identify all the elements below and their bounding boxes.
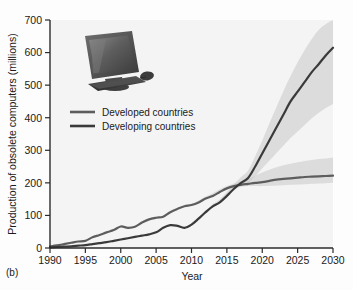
x-tick-label: 2005 — [144, 254, 168, 266]
x-tick-label: 1990 — [38, 254, 62, 266]
x-tick-label: 2020 — [251, 254, 275, 266]
figure-panel-b: 0100200300400500600700 19901995200020052… — [0, 0, 353, 290]
y-tick-label: 600 — [24, 46, 42, 58]
y-tick-label: 200 — [24, 177, 42, 189]
x-axis-ticks: 199019952000200520102015202020252030 — [38, 248, 345, 266]
legend-label-developing: Developing countries — [102, 121, 195, 132]
chart-canvas: 0100200300400500600700 19901995200020052… — [0, 0, 353, 290]
y-axis-title: Production of obsolete computers (millio… — [6, 33, 18, 234]
x-tick-label: 2025 — [286, 254, 310, 266]
y-tick-label: 0 — [36, 242, 42, 254]
y-tick-label: 700 — [24, 14, 42, 26]
x-tick-label: 2030 — [321, 254, 345, 266]
x-axis-title: Year — [181, 270, 203, 282]
y-tick-label: 400 — [24, 112, 42, 124]
x-tick-label: 2010 — [180, 254, 204, 266]
y-axis-ticks: 0100200300400500600700 — [24, 14, 50, 254]
x-tick-label: 2015 — [215, 254, 239, 266]
y-tick-label: 100 — [24, 209, 42, 221]
y-tick-label: 500 — [24, 79, 42, 91]
legend-label-developed: Developed countries — [102, 107, 193, 118]
panel-label: (b) — [6, 267, 18, 278]
y-tick-label: 300 — [24, 144, 42, 156]
x-tick-label: 1995 — [74, 254, 98, 266]
x-tick-label: 2000 — [109, 254, 133, 266]
